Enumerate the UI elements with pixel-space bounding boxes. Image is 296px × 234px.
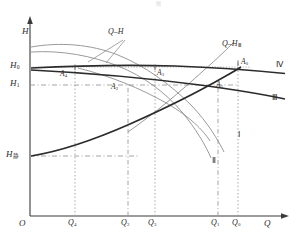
x-tick-q2-base: Q: [121, 218, 127, 227]
point-label-a1-sub: 1: [221, 84, 223, 89]
curve-label-qh3-sub: Ⅲ: [238, 43, 241, 48]
point-label-a1: A1: [216, 81, 223, 90]
point-label-a3: A3: [157, 69, 164, 78]
x-tick-q1-base: Q: [211, 218, 217, 227]
x-tick-q3-base: Q: [148, 218, 154, 227]
curve-system-resistance: [31, 67, 241, 156]
x-tick-q0-base: Q: [232, 218, 238, 227]
x-tick-q3-sub: 3: [154, 222, 156, 227]
y-axis-arrow: [27, 16, 33, 24]
x-axis-label: Q: [264, 219, 271, 228]
x-tick-q0-sub: 0: [238, 222, 240, 227]
curve-label-qh-base: Q–H: [108, 27, 124, 36]
y-tick-hjing: H静: [6, 150, 19, 160]
y-axis-label: H: [22, 27, 29, 36]
axis-group: [27, 16, 289, 219]
curve-label-iii: Ⅲ: [272, 94, 278, 102]
x-tick-q2: Q2: [121, 219, 129, 228]
y-tick-h1-base: H: [10, 78, 17, 88]
y-tick-h1: H1: [10, 79, 19, 89]
x-tick-q1-sub: 1: [217, 222, 219, 227]
y-tick-h0: H0: [10, 61, 19, 71]
y-tick-hjing-sub: 静: [13, 153, 19, 159]
y-tick-h1-sub: 1: [17, 82, 20, 88]
point-label-a0-base: A: [241, 57, 246, 66]
y-tick-h0-sub: 0: [17, 64, 20, 70]
point-label-a0: A0: [241, 58, 248, 67]
point-label-a3-base: A: [157, 68, 162, 77]
point-label-a2-base: A: [111, 82, 116, 91]
y-tick-hjing-base: H: [6, 149, 13, 159]
y-tick-h0-base: H: [10, 60, 17, 70]
x-tick-q2-sub: 2: [127, 222, 129, 227]
point-label-a4-base: A: [60, 69, 65, 78]
curve-label-iv: Ⅳ: [276, 61, 283, 69]
curve-label-ii: Ⅱ: [212, 157, 216, 165]
x-tick-q1: Q1: [211, 219, 219, 228]
chart-canvas: [0, 0, 296, 234]
point-label-a2-sub: 2: [116, 86, 118, 91]
x-axis-arrow: [281, 213, 289, 219]
point-label-a1-base: A: [216, 80, 221, 89]
curve-label-qh3-base: Q–H: [222, 39, 238, 48]
x-tick-q4-base: Q: [68, 218, 74, 227]
leader-lines: [88, 40, 125, 63]
point-label-a2: A2: [111, 83, 118, 92]
point-label-a0-sub: 0: [246, 61, 248, 66]
point-label-a4-sub: 4: [65, 73, 67, 78]
leader-line-a: [88, 40, 123, 62]
curve-label-i: Ⅰ: [238, 131, 240, 139]
point-label-a3-sub: 3: [162, 72, 164, 77]
curve-label-qh3: Q–HⅢ: [222, 40, 241, 49]
x-tick-q3: Q3: [148, 219, 156, 228]
x-tick-q4: Q4: [68, 219, 76, 228]
x-tick-q0: Q0: [232, 219, 240, 228]
vertical-droplines: [75, 63, 238, 216]
origin-label: O: [19, 219, 26, 228]
curve-qh-upper: [31, 44, 224, 152]
x-tick-q4-sub: 4: [74, 222, 76, 227]
curve-label-qh: Q–H: [108, 28, 124, 36]
point-label-a4: A4: [60, 70, 67, 79]
